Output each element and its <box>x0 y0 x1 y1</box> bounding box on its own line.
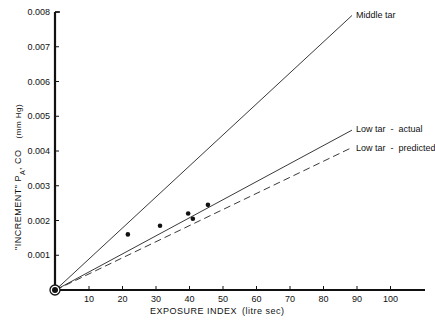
y-tick-label: 0.002 <box>27 216 50 226</box>
data-point <box>186 211 191 216</box>
svg-text:"INCREMENT" PA, CO (mm H: "INCREMENT" PA, CO (mm Hg) <box>13 104 26 250</box>
x-tick-label: 100 <box>383 294 398 304</box>
y-tick-label: 0.001 <box>27 250 50 260</box>
data-points <box>126 203 211 237</box>
line-low-tar-actual <box>56 130 352 290</box>
x-tick-label: 70 <box>285 294 295 304</box>
series-label-middle-tar: Middle tar <box>356 10 396 20</box>
series-label-low-tar-predicted: Low tar - predicted <box>356 143 435 153</box>
x-tick-label: 10 <box>84 294 94 304</box>
x-tick-label: 80 <box>318 294 328 304</box>
y-axis-title-main: "INCREMENT" P <box>13 175 23 250</box>
x-tick-label: 50 <box>218 294 228 304</box>
line-low-tar-predicted <box>56 148 352 290</box>
data-point <box>126 232 131 237</box>
y-tick-label: 0.005 <box>27 111 50 121</box>
data-point <box>206 203 211 208</box>
x-tick-label: 30 <box>151 294 161 304</box>
y-axis-unit: (mm Hg) <box>14 104 23 139</box>
x-axis-unit: (litre sec) <box>242 306 285 316</box>
series-label-low-tar-actual: Low tar - actual <box>356 124 423 134</box>
y-axis-title-rest: , CO <box>13 149 23 170</box>
y-tick-label: 0.004 <box>27 146 50 156</box>
data-point <box>191 216 196 221</box>
x-tick-label: 20 <box>117 294 127 304</box>
x-tick-label: 40 <box>184 294 194 304</box>
x-tick-label: 90 <box>352 294 362 304</box>
series-lines <box>56 15 352 290</box>
line-middle-tar <box>56 15 352 290</box>
y-tick-label: 0.006 <box>27 77 50 87</box>
y-tick-label: 0.008 <box>27 7 50 17</box>
y-axis-title: "INCREMENT" PA, CO (mm Hg) <box>13 104 26 250</box>
y-tick-label: 0.003 <box>27 181 50 191</box>
chart: 0.0010.0020.0030.0040.0050.0060.0070.008… <box>0 0 435 327</box>
x-tick-label: 60 <box>251 294 261 304</box>
data-point <box>158 223 163 228</box>
origin-marker-dot <box>52 287 58 293</box>
y-tick-label: 0.007 <box>27 42 50 52</box>
x-axis-title: EXPOSURE INDEX <box>150 306 237 316</box>
x-axis-ticks: 102030405060708090100 <box>84 286 398 304</box>
